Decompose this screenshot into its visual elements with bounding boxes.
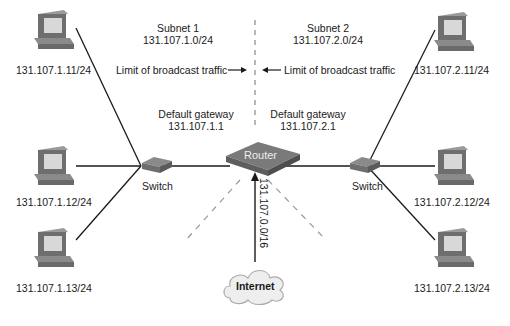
host-label: 131.107.1.11/24 (16, 64, 91, 76)
host-label: 131.107.1.13/24 (16, 282, 92, 294)
subnet1-header: Subnet 1 131.107.1.0/24 (143, 22, 213, 46)
switch-icon (140, 155, 174, 175)
host-label: 131.107.2.11/24 (414, 64, 489, 76)
host-label: 131.107.2.13/24 (414, 282, 490, 294)
computer-icon (432, 144, 476, 188)
arrow-left-icon (262, 67, 268, 73)
subnet1-broadcast-label: Limit of broadcast traffic (116, 64, 227, 76)
gateway-ip: 131.107.1.1 (158, 120, 233, 132)
switch-icon (348, 155, 382, 175)
subnet2-broadcast-label: Limit of broadcast traffic (284, 64, 395, 76)
uplink-network-label: 131.107.0.0/16 (258, 178, 270, 248)
internet-label: Internet (236, 280, 275, 292)
switch2-label: Switch (352, 180, 383, 192)
gateway-label: Default gateway (158, 108, 233, 120)
subnet2-header: Subnet 2 131.107.2.0/24 (293, 22, 363, 46)
subnet2-title: Subnet 2 (293, 22, 363, 34)
computer-icon (32, 144, 76, 188)
link-host-1-11 (76, 28, 141, 166)
router-icon: Router (222, 140, 302, 180)
computer-icon (432, 226, 476, 270)
gateway-label: Default gateway (270, 108, 345, 120)
computer-icon (432, 10, 476, 54)
router-label: Router (244, 149, 277, 161)
subnet2-network: 131.107.2.0/24 (293, 34, 363, 46)
subnet1-gateway: Default gateway 131.107.1.1 (158, 108, 233, 132)
dashed-line-left (186, 180, 240, 240)
host-label: 131.107.1.12/24 (16, 196, 92, 208)
computer-icon (32, 8, 76, 52)
link-host-2-11 (367, 30, 435, 166)
host-label: 131.107.2.12/24 (414, 196, 490, 208)
dashed-line-right (268, 180, 326, 240)
computer-icon (32, 226, 76, 270)
subnet2-gateway: Default gateway 131.107.2.1 (270, 108, 345, 132)
subnet1-title: Subnet 1 (143, 22, 213, 34)
internet-cloud-icon: Internet (220, 266, 290, 306)
arrow-right-icon (241, 67, 247, 73)
gateway-ip: 131.107.2.1 (270, 120, 345, 132)
switch1-label: Switch (142, 180, 173, 192)
subnet1-network: 131.107.1.0/24 (143, 34, 213, 46)
